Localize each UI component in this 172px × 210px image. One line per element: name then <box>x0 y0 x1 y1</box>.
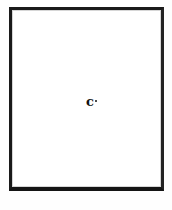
page-border-frame: c <box>9 7 164 191</box>
page-body-blank-area: c <box>12 10 161 187</box>
ink-mark-dot <box>95 100 97 102</box>
scanned-page-canvas: c <box>0 0 172 210</box>
ink-mark-glyph: c <box>86 94 93 109</box>
ink-mark: c <box>86 96 100 108</box>
